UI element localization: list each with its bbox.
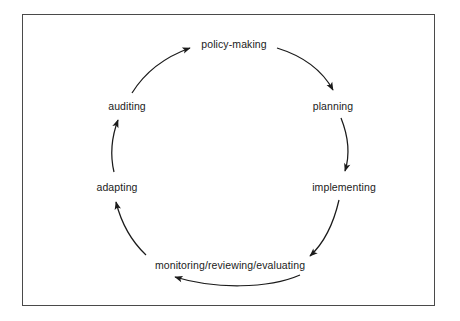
stage-label-monitoring-reviewing-evaluating: monitoring/reviewing/evaluating bbox=[155, 260, 305, 272]
policy-cycle-figure: policy-making planning implementing moni… bbox=[0, 0, 460, 321]
arrow-adapting-to-auditing bbox=[112, 120, 118, 172]
arrow-policy-making-to-planning bbox=[277, 48, 333, 90]
stage-label-auditing: auditing bbox=[108, 101, 146, 113]
stage-label-planning: planning bbox=[313, 101, 354, 113]
arrow-planning-to-implementing bbox=[341, 118, 348, 171]
arrow-lower-left-to-adapting bbox=[116, 202, 146, 255]
arrow-monitoring-to-adapting bbox=[175, 275, 300, 286]
stage-label-adapting: adapting bbox=[96, 182, 137, 194]
stage-label-policy-making: policy-making bbox=[201, 39, 267, 51]
arrow-auditing-to-policy-making bbox=[132, 48, 190, 93]
stage-label-implementing: implementing bbox=[312, 182, 376, 194]
arrow-implementing-to-monitoring bbox=[310, 200, 339, 256]
